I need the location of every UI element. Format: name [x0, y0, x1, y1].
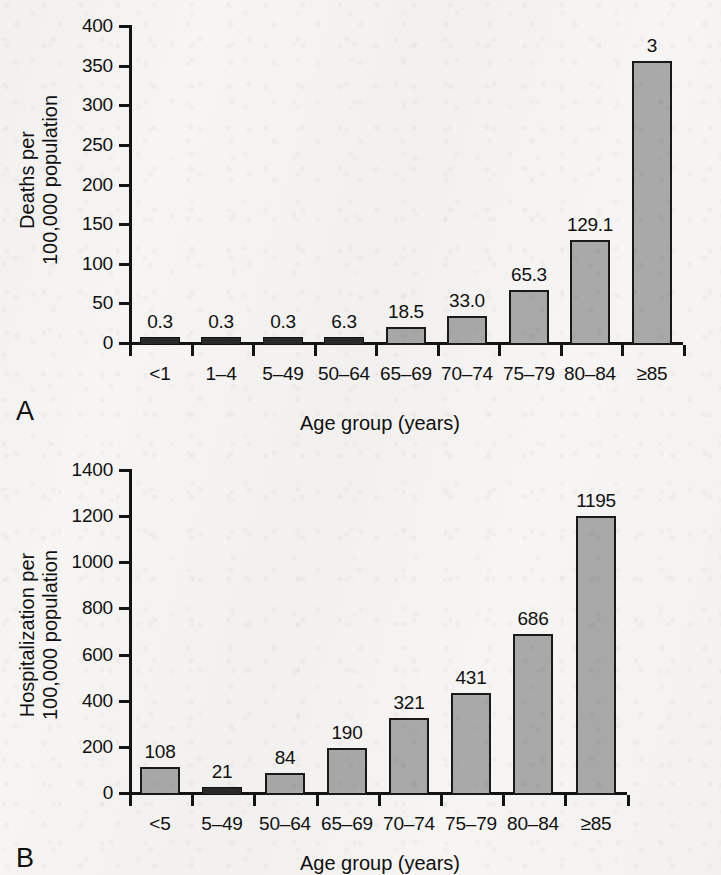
- y-axis-tick: [119, 515, 129, 518]
- panel-letter-b: B: [16, 845, 34, 872]
- bar: [324, 337, 364, 345]
- x-axis-tick: [498, 345, 501, 356]
- x-axis-tick: [191, 345, 194, 356]
- x-axis-title-a: Age group (years): [230, 413, 530, 433]
- bar-value-label: 1195: [541, 491, 651, 510]
- x-axis-tick: [129, 795, 132, 806]
- bar: [576, 516, 616, 795]
- bar: [509, 290, 549, 345]
- y-axis-title-line1: Hospitalization per: [16, 505, 39, 765]
- x-axis-tick: [378, 795, 381, 806]
- bar: [202, 787, 242, 795]
- x-axis-tick: [129, 345, 132, 356]
- y-axis-tick: [119, 65, 129, 68]
- y-axis-tick-label: 1400: [51, 460, 113, 479]
- bar-value-label: 129.1: [535, 215, 645, 234]
- bar-value-label: 84: [230, 748, 340, 767]
- y-axis-tick: [119, 223, 129, 226]
- y-axis-tick: [119, 792, 129, 795]
- x-axis-tick: [314, 345, 317, 356]
- bar: [327, 748, 367, 795]
- x-axis-tick: [316, 795, 319, 806]
- y-axis-title-line1: Deaths per: [16, 50, 39, 310]
- x-axis-tick: [191, 795, 194, 806]
- x-axis-tick-label: ≥85: [551, 814, 641, 833]
- y-axis-tick: [119, 184, 129, 187]
- bar-value-label: 108: [105, 742, 215, 761]
- bar: [263, 337, 303, 345]
- y-axis-tick-label: 400: [51, 16, 113, 35]
- panel-letter-a: A: [16, 398, 34, 425]
- y-axis-tick: [119, 302, 129, 305]
- bar: [386, 327, 426, 345]
- bar: [570, 240, 610, 345]
- x-axis-title-b: Age group (years): [230, 853, 530, 873]
- bar: [632, 61, 672, 345]
- x-axis-tick: [560, 345, 563, 356]
- bar-value-label: 190: [292, 723, 402, 742]
- bar: [451, 693, 491, 795]
- x-axis-tick-label: ≥85: [607, 364, 697, 383]
- bar: [265, 773, 305, 795]
- bar: [447, 316, 487, 345]
- bar-value-label: 686: [478, 609, 588, 628]
- y-axis-tick: [119, 342, 129, 345]
- x-axis-tick: [375, 345, 378, 356]
- bar-value-label: 3: [597, 36, 707, 55]
- chart-panel-a: 0501001502002503003504000.3<10.31–40.35–…: [0, 0, 721, 440]
- y-axis-tick: [119, 104, 129, 107]
- bar-value-label: 33.0: [412, 291, 522, 310]
- x-axis-tick: [683, 345, 686, 356]
- chart-panel-b: 0200400600800100012001400108<5215–498450…: [0, 440, 721, 875]
- y-axis-title-line2: 100,000 population: [39, 505, 62, 765]
- y-axis-tick: [119, 700, 129, 703]
- bar: [201, 337, 241, 345]
- y-axis-tick: [119, 561, 129, 564]
- x-axis-tick: [252, 345, 255, 356]
- y-axis-tick: [119, 607, 129, 610]
- x-axis-tick: [564, 795, 567, 806]
- y-axis-title-b: Hospitalization per100,000 population: [16, 505, 62, 765]
- x-axis-tick: [621, 345, 624, 356]
- y-axis-tick: [119, 263, 129, 266]
- y-axis-line: [129, 25, 132, 345]
- y-axis-title-a: Deaths per100,000 population: [16, 50, 62, 310]
- y-axis-tick: [119, 144, 129, 147]
- y-axis-tick-label: 0: [51, 783, 113, 802]
- y-axis-tick: [119, 25, 129, 28]
- x-axis-tick: [627, 795, 630, 806]
- y-axis-tick-label: 0: [51, 333, 113, 352]
- x-axis-tick: [440, 795, 443, 806]
- y-axis-title-line2: 100,000 population: [39, 50, 62, 310]
- x-axis-tick: [253, 795, 256, 806]
- y-axis-tick: [119, 654, 129, 657]
- bar-value-label: 65.3: [474, 265, 584, 284]
- x-axis-tick: [437, 345, 440, 356]
- bar: [389, 718, 429, 795]
- bar: [140, 337, 180, 345]
- bar-value-label: 321: [354, 693, 464, 712]
- bar-value-label: 431: [416, 668, 526, 687]
- x-axis-tick: [502, 795, 505, 806]
- bar: [513, 634, 553, 795]
- y-axis-tick: [119, 469, 129, 472]
